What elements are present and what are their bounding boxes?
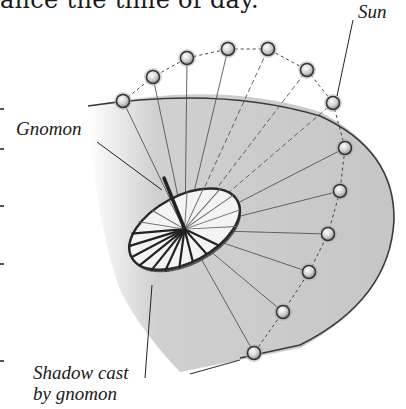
cropped-text-fragment	[0, 148, 4, 150]
cropped-text-fragment	[0, 108, 4, 110]
sun-icon	[144, 68, 162, 86]
sun-icon	[259, 40, 277, 58]
sun-icon	[245, 344, 263, 362]
sun-icon	[298, 61, 316, 79]
cropped-text-fragment	[0, 205, 4, 207]
shadow-label-line2: by gnomon	[33, 383, 117, 405]
sun-icon	[274, 303, 292, 321]
sun-icon	[336, 139, 354, 157]
sun-leader-line	[337, 20, 353, 96]
sun-icon	[319, 225, 337, 243]
sun-icon	[324, 94, 342, 112]
sun-icon	[114, 92, 132, 110]
cropped-text-fragment	[0, 360, 4, 362]
sun-icon	[178, 49, 196, 67]
sundial-diagram	[0, 0, 406, 409]
gnomon-label: Gnomon	[16, 118, 81, 140]
cropped-text-fragment	[0, 263, 4, 265]
shadow-label-line1: Shadow cast	[33, 362, 129, 384]
sun-icon	[300, 263, 318, 281]
sun-label: Sun	[358, 1, 387, 23]
sun-icon	[219, 40, 237, 58]
sun-icon	[331, 182, 349, 200]
